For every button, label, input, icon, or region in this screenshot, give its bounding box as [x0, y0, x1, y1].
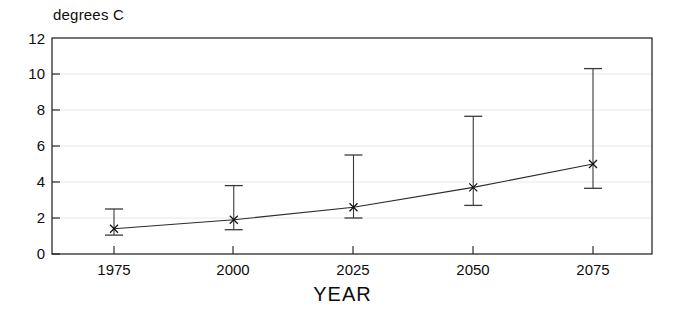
xtick-label-2000: 2000: [216, 261, 249, 278]
xtick-label-1975: 1975: [97, 261, 130, 278]
ytick-label-8: 8: [37, 101, 45, 118]
x-axis-ticks: [114, 246, 593, 254]
x-axis-tick-labels: 1975 2000 2025 2050 2075: [97, 261, 609, 278]
x-axis-caption-text: YEAR: [313, 283, 371, 305]
ytick-label-10: 10: [28, 65, 45, 82]
ytick-label-6: 6: [37, 137, 45, 154]
ytick-label-0: 0: [37, 245, 45, 262]
plot-area: 0 2 4 6 8 10 12 1975 2000 2025 2050 2075: [0, 0, 677, 316]
ytick-label-4: 4: [37, 173, 45, 190]
y-axis-tick-labels: 0 2 4 6 8 10 12: [28, 30, 45, 262]
chart-figure: degrees C 0 2 4 6 8 10 12: [0, 0, 677, 316]
xtick-label-2075: 2075: [576, 261, 609, 278]
xtick-label-2050: 2050: [456, 261, 489, 278]
error-bars: [105, 69, 602, 236]
ytick-label-2: 2: [37, 209, 45, 226]
x-axis-caption: YEAR: [0, 283, 677, 306]
xtick-label-2025: 2025: [336, 261, 369, 278]
gridlines: [52, 74, 652, 218]
ytick-label-12: 12: [28, 30, 45, 47]
y-axis-ticks: [52, 74, 60, 254]
